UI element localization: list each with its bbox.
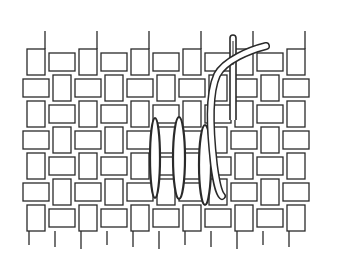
warp-thread [53,127,71,153]
warp-thread [105,127,123,153]
warp-thread [131,205,149,231]
weft-thread [257,209,283,227]
weave-drawing [0,0,348,271]
weft-thread [127,79,153,97]
weft-thread [75,183,101,201]
weft-thread [231,131,257,149]
weft-thread [75,79,101,97]
warp-thread [79,205,97,231]
satin-stitch [173,117,185,199]
weft-thread [101,53,127,71]
warp-thread [105,179,123,205]
weft-thread [179,79,205,97]
warp-thread [79,101,97,127]
warp-thread [131,153,149,179]
warp-thread [53,179,71,205]
weft-thread [283,79,309,97]
weft-thread [153,53,179,71]
needle-icon [230,35,236,120]
weft-thread [283,183,309,201]
warp-thread [287,153,305,179]
warp-thread [105,75,123,101]
weft-thread [49,157,75,175]
warp-thread [261,179,279,205]
warp-thread [27,153,45,179]
weft-thread [101,157,127,175]
weft-thread [23,131,49,149]
weft-thread [23,183,49,201]
weft-thread [49,53,75,71]
weft-thread [231,183,257,201]
warp-thread [261,75,279,101]
woven-fabric-grid [23,31,309,249]
weft-thread [49,209,75,227]
warp-thread [183,101,201,127]
weft-thread [23,79,49,97]
warp-thread [287,205,305,231]
weft-thread [127,131,153,149]
warp-thread [79,153,97,179]
weft-thread [101,209,127,227]
warp-thread [235,153,253,179]
weft-thread [205,209,231,227]
warp-thread [261,127,279,153]
warp-thread [235,101,253,127]
warp-thread [183,49,201,75]
warp-thread [235,205,253,231]
warp-thread [131,101,149,127]
warp-thread [183,205,201,231]
weft-thread [49,105,75,123]
warp-thread [157,75,175,101]
warp-thread [53,75,71,101]
satin-stitch-illustration: Satin stitch on plain-weave fabric with … [0,0,348,271]
weft-thread [257,53,283,71]
weft-thread [257,157,283,175]
weft-thread [257,105,283,123]
warp-thread [27,49,45,75]
weft-thread [127,183,153,201]
warp-thread [287,49,305,75]
weft-thread [283,131,309,149]
warp-thread [131,49,149,75]
satin-stitch [150,118,160,198]
warp-thread [27,101,45,127]
warp-thread [79,49,97,75]
weft-thread [153,209,179,227]
warp-thread [287,101,305,127]
weft-thread [101,105,127,123]
weft-thread [75,131,101,149]
warp-thread [27,205,45,231]
